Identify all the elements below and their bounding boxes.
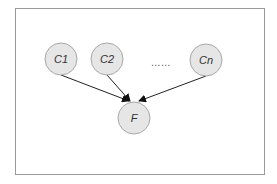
node-c2-label: C2 <box>100 53 114 65</box>
node-c1-label: C1 <box>54 53 68 65</box>
diagram-canvas: C1 C2 …… Cn F <box>0 0 277 184</box>
node-c2: C2 <box>91 43 123 75</box>
node-c1: C1 <box>45 43 77 75</box>
diagram-frame <box>16 9 265 175</box>
node-cn-label: Cn <box>199 54 213 66</box>
node-f: F <box>118 102 150 134</box>
ellipsis: …… <box>151 57 171 68</box>
node-cn: Cn <box>190 44 222 76</box>
